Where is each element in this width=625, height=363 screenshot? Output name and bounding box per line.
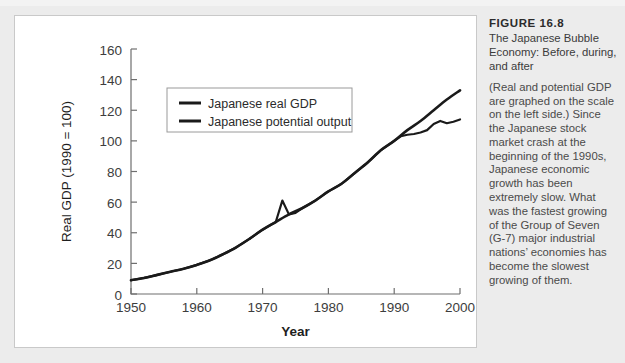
- y-tick-label-140: 140: [99, 73, 122, 88]
- legend-label-1: Japanese potential output: [208, 115, 352, 129]
- x-tick-label-1950: 1950: [116, 300, 146, 315]
- axis-spines: [131, 49, 460, 294]
- y-tick-label-100: 100: [99, 134, 122, 149]
- x-axis-title: Year: [281, 324, 310, 339]
- y-tick-label-80: 80: [107, 165, 122, 180]
- y-tick-label-160: 160: [99, 43, 122, 58]
- line-chart-svg: 0204060801001201401601950196019701980199…: [15, 16, 478, 349]
- x-tick-label-1960: 1960: [182, 300, 212, 315]
- y-tick-label-20: 20: [107, 257, 122, 272]
- y-axis-title: Real GDP (1990 = 100): [59, 101, 74, 242]
- y-tick-label-60: 60: [107, 196, 122, 211]
- legend-label-0: Japanese real GDP: [208, 97, 317, 111]
- x-tick-label-1990: 1990: [379, 300, 409, 315]
- x-tick-label-2000: 2000: [445, 300, 475, 315]
- chart-axes: [131, 49, 460, 294]
- figure-body-text: (Real and potential GDP are graphed on t…: [489, 81, 617, 288]
- figure-number: FIGURE 16.8: [489, 16, 617, 30]
- chart-legend: Japanese real GDPJapanese potential outp…: [167, 88, 352, 132]
- y-tick-label-40: 40: [107, 226, 122, 241]
- plot-area: 0204060801001201401601950196019701980199…: [15, 16, 478, 349]
- x-tick-label-1970: 1970: [248, 300, 278, 315]
- figure-subtitle: The Japanese Bubble Economy: Before, dur…: [489, 32, 617, 73]
- y-tick-label-120: 120: [99, 104, 122, 119]
- x-tick-label-1980: 1980: [313, 300, 343, 315]
- figure-container: 0204060801001201401601950196019701980199…: [0, 0, 625, 363]
- figure-caption: FIGURE 16.8 The Japanese Bubble Economy:…: [489, 16, 617, 351]
- series-line-real-gdp: [131, 119, 460, 280]
- chart-panel: 0204060801001201401601950196019701980199…: [14, 15, 477, 348]
